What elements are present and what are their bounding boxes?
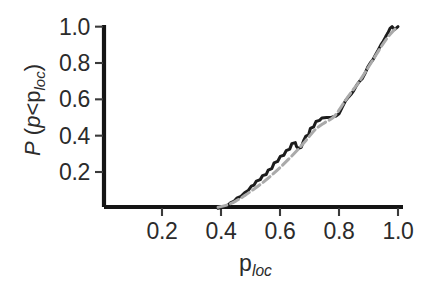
series-reference-curve xyxy=(218,27,398,208)
data-series-group xyxy=(218,27,398,209)
series-empirical-cdf xyxy=(218,27,398,209)
figure-container: P (p<ploc) ploc 0.20.40.60.81.0 0.20.40.… xyxy=(0,0,427,287)
plot-svg xyxy=(0,0,427,287)
